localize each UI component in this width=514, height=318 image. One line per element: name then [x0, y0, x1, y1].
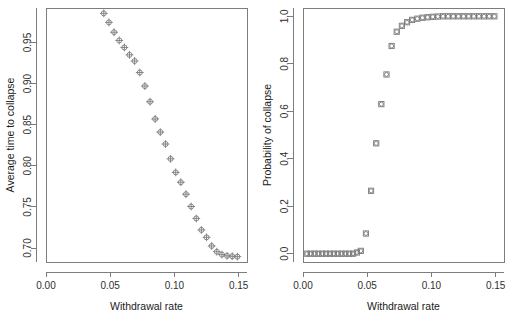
- x-tick-label: 0.15: [229, 280, 249, 291]
- data-point-marker: [389, 43, 394, 48]
- x-tick-label: 0.10: [165, 280, 185, 291]
- right-plot-canvas: 0.000.050.100.150.00.20.40.60.81.0Withdr…: [257, 0, 514, 318]
- data-point-marker: [192, 215, 200, 223]
- data-point-marker: [131, 57, 139, 65]
- x-tick-label: 0.00: [36, 280, 56, 291]
- data-point-marker: [404, 20, 409, 25]
- data-point-marker: [446, 14, 451, 19]
- data-point-marker: [182, 190, 190, 198]
- data-point-marker: [410, 17, 415, 22]
- data-point-marker: [399, 23, 404, 28]
- x-tick-label: 0.05: [100, 280, 120, 291]
- y-tick-label: 0.85: [22, 115, 33, 135]
- y-axis: 0.700.750.800.850.900.95: [22, 8, 36, 262]
- x-axis-title: Withdrawal rate: [367, 300, 440, 312]
- panel-average-time-to-collapse: 0.000.050.100.150.700.750.800.850.900.95…: [0, 0, 257, 318]
- data-point-marker: [481, 14, 486, 19]
- data-point-marker: [141, 82, 149, 90]
- data-point-marker: [420, 15, 425, 20]
- y-tick-label: 0.95: [22, 32, 33, 52]
- data-point-marker: [187, 203, 195, 211]
- x-axis-title: Withdrawal rate: [110, 300, 183, 312]
- data-point-marker: [487, 14, 492, 19]
- data-point-marker: [476, 14, 481, 19]
- x-tick-label: 0.15: [486, 280, 506, 291]
- x-tick-label: 0.00: [293, 280, 313, 291]
- data-point-marker: [363, 231, 368, 236]
- data-point-marker: [198, 226, 206, 234]
- data-point-marker: [120, 44, 128, 52]
- data-point-marker: [208, 242, 216, 250]
- data-point-marker: [425, 15, 430, 20]
- y-tick-label: 0.8: [279, 56, 290, 70]
- data-point-marker: [471, 14, 476, 19]
- data-point-marker: [105, 18, 113, 26]
- data-point-marker: [379, 102, 384, 107]
- y-axis-title: Probability of collapse: [261, 84, 273, 186]
- y-tick-label: 0.4: [279, 151, 290, 165]
- data-point-marker: [466, 14, 471, 19]
- data-point-marker: [203, 233, 211, 241]
- data-point-marker: [100, 9, 108, 17]
- y-axis-title: Average time to collapse: [4, 77, 16, 192]
- y-tick-label: 0.0: [279, 246, 290, 260]
- data-point-marker: [394, 29, 399, 34]
- data-point-marker: [136, 69, 144, 77]
- y-tick-label: 0.2: [279, 199, 290, 213]
- y-tick-label: 0.90: [22, 73, 33, 93]
- data-point-marker: [384, 72, 389, 77]
- y-axis: 0.00.20.40.60.81.0: [279, 8, 293, 262]
- data-point-marker: [461, 14, 466, 19]
- data-point-marker: [492, 14, 497, 19]
- data-point-marker: [162, 140, 170, 148]
- x-tick-label: 0.05: [357, 280, 377, 291]
- data-series: [304, 14, 497, 257]
- data-point-marker: [451, 14, 456, 19]
- data-point-marker: [430, 14, 435, 19]
- plot-box-frame: [46, 8, 247, 262]
- y-tick-label: 0.6: [279, 104, 290, 118]
- two-panel-figure: 0.000.050.100.150.700.750.800.850.900.95…: [0, 0, 514, 318]
- y-tick-label: 0.70: [22, 238, 33, 258]
- data-point-marker: [126, 51, 134, 59]
- data-point-marker: [167, 155, 175, 163]
- plot-box-frame: [303, 8, 504, 262]
- x-tick-label: 0.10: [422, 280, 442, 291]
- left-plot-canvas: 0.000.050.100.150.700.750.800.850.900.95…: [0, 0, 257, 318]
- data-point-marker: [415, 16, 420, 21]
- data-series: [100, 9, 241, 260]
- panel-probability-of-collapse: 0.000.050.100.150.00.20.40.60.81.0Withdr…: [257, 0, 514, 318]
- x-axis: 0.000.050.100.15: [293, 272, 506, 291]
- x-axis: 0.000.050.100.15: [36, 272, 249, 291]
- data-point-marker: [233, 253, 241, 261]
- data-point-marker: [435, 14, 440, 19]
- data-point-marker: [110, 28, 118, 36]
- data-point-marker: [115, 37, 123, 45]
- data-point-marker: [368, 188, 373, 193]
- y-tick-label: 1.0: [279, 9, 290, 23]
- data-point-marker: [440, 14, 445, 19]
- data-point-marker: [374, 141, 379, 146]
- data-point-marker: [156, 128, 164, 136]
- data-point-marker: [151, 115, 159, 123]
- data-point-marker: [456, 14, 461, 19]
- y-tick-label: 0.75: [22, 197, 33, 217]
- data-point-marker: [146, 98, 154, 106]
- data-point-marker: [177, 178, 185, 186]
- y-tick-label: 0.80: [22, 156, 33, 176]
- data-point-marker: [172, 169, 180, 177]
